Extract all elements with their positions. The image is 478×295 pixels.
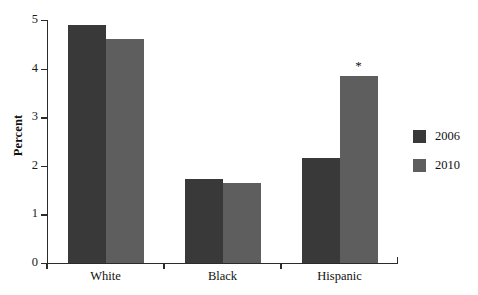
bar-hispanic-2006 bbox=[302, 158, 340, 263]
y-axis-tick-mark bbox=[41, 214, 47, 215]
legend-item-2006[interactable]: 2006 bbox=[413, 129, 460, 143]
y-axis-tick-mark bbox=[41, 166, 47, 167]
x-axis-category-label-black: Black bbox=[164, 270, 281, 283]
y-axis-tick-mark bbox=[41, 117, 47, 118]
x-axis-category-label-hispanic: Hispanic bbox=[281, 270, 398, 283]
x-axis-tick-mark bbox=[280, 263, 281, 269]
y-axis-tick-label: 4 bbox=[12, 62, 38, 75]
y-axis-tick-label: 5 bbox=[12, 13, 38, 26]
bar-chart: 012345 Percent WhiteBlackHispanic * 2006… bbox=[0, 0, 478, 295]
y-axis-tick-mark bbox=[41, 20, 47, 21]
x-axis-tick-mark bbox=[46, 263, 47, 269]
bar-black-2006 bbox=[185, 179, 223, 263]
y-axis-tick-label: 0 bbox=[12, 256, 38, 269]
bar-white-2010 bbox=[106, 39, 144, 263]
bar-white-2006 bbox=[68, 25, 106, 263]
legend-label: 2006 bbox=[435, 130, 460, 143]
y-axis-line bbox=[47, 20, 48, 264]
legend-swatch-icon bbox=[413, 130, 426, 143]
bar-black-2010 bbox=[223, 183, 261, 263]
bar-hispanic-2010 bbox=[340, 76, 378, 263]
legend-swatch-icon bbox=[413, 159, 426, 172]
y-axis-tick-label: 1 bbox=[12, 207, 38, 220]
legend-item-2010[interactable]: 2010 bbox=[413, 158, 460, 172]
x-axis-end-cap bbox=[397, 257, 398, 264]
y-axis-label: Percent bbox=[11, 106, 26, 166]
x-axis-category-label-white: White bbox=[47, 270, 164, 283]
legend: 20062010 bbox=[413, 129, 460, 187]
x-axis-tick-mark bbox=[163, 263, 164, 269]
significance-asterisk: * bbox=[340, 59, 378, 72]
legend-label: 2010 bbox=[435, 159, 460, 172]
y-axis-tick-mark bbox=[41, 69, 47, 70]
